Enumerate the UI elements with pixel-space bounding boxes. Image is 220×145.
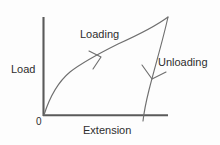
y-axis-label: Load xyxy=(11,64,35,75)
unloading-curve xyxy=(143,17,168,121)
x-axis-label: Extension xyxy=(83,125,131,136)
unloading-annotation-label: Unloading xyxy=(158,57,208,68)
origin-label: 0 xyxy=(36,117,42,127)
loading-annotation-label: Loading xyxy=(80,29,119,40)
load-extension-diagram: Load Extension Loading Unloading 0 xyxy=(0,0,220,145)
